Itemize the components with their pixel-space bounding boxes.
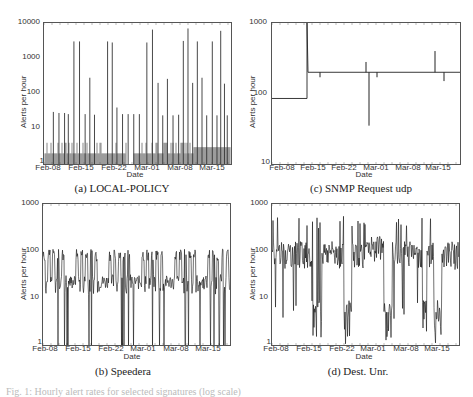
y-tick: 10000 [10, 17, 40, 26]
x-tick: Feb-22 [101, 163, 126, 172]
x-tick: Mar-15 [195, 344, 220, 353]
plot-area [271, 203, 460, 346]
y-tick: 1000 [10, 52, 40, 61]
alert-series [272, 204, 459, 345]
y-tick: 10 [9, 292, 39, 301]
alert-series [272, 23, 460, 164]
y-tick: 1000 [238, 198, 268, 207]
x-tick: Mar-15 [424, 344, 449, 353]
plot-area [271, 22, 461, 165]
panel-caption: (d) Dest. Unr. [328, 365, 389, 377]
y-tick: 100 [237, 88, 267, 97]
x-tick: Feb-08 [269, 163, 294, 172]
panel-caption: (a) LOCAL-POLICY [74, 182, 169, 194]
y-tick: 10 [238, 292, 268, 301]
x-tick: Feb-15 [296, 344, 321, 353]
y-tick: 1000 [9, 198, 39, 207]
x-tick: Mar-08 [393, 344, 418, 353]
plot-area [43, 22, 232, 165]
x-axis-label: Date [356, 352, 373, 361]
alert-series [43, 204, 230, 345]
y-tick: 100 [238, 245, 268, 254]
figure-caption: Fig. 1: Hourly alert rates for selected … [6, 386, 241, 397]
panel-caption: (c) SNMP Request udp [310, 182, 412, 194]
x-tick: Feb-08 [263, 344, 288, 353]
y-tick: 1000 [237, 17, 267, 26]
x-axis-label: Date [356, 170, 373, 179]
x-tick: Feb-15 [68, 163, 93, 172]
y-tick: 10 [240, 157, 270, 166]
x-tick: Mar-08 [395, 163, 420, 172]
y-axis-label: Alerts per hour [19, 76, 28, 128]
x-tick: Mar-08 [163, 344, 188, 353]
y-tick: 100 [9, 245, 39, 254]
plot-area [42, 203, 231, 346]
x-tick: Feb-08 [35, 163, 60, 172]
y-tick: 10 [10, 122, 40, 131]
x-tick: Mar-15 [199, 163, 224, 172]
x-tick: Feb-22 [98, 344, 123, 353]
x-tick: Feb-15 [65, 344, 90, 353]
x-tick: Feb-08 [32, 344, 57, 353]
x-tick: Feb-22 [331, 163, 356, 172]
x-tick: Feb-15 [300, 163, 325, 172]
x-tick: Feb-22 [329, 344, 354, 353]
alert-series [44, 23, 231, 164]
x-tick: Mar-15 [425, 163, 450, 172]
y-tick: 100 [10, 87, 40, 96]
y-axis-label: Alerts per hour [248, 76, 257, 128]
panel-caption: (b) Speedera [95, 365, 151, 377]
x-tick: Mar-08 [167, 163, 192, 172]
x-axis-label: Date [124, 352, 141, 361]
x-axis-label: Date [127, 170, 144, 179]
